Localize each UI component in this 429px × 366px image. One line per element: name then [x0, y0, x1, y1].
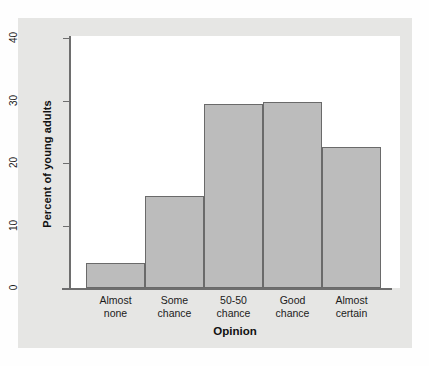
- x-label-line-2: chance: [204, 307, 263, 320]
- x-label-some-chance: Some chance: [145, 294, 204, 320]
- x-label-almost-none: Almost none: [86, 294, 145, 320]
- x-label-line-1: 50-50: [204, 294, 263, 307]
- x-label-line-2: none: [86, 307, 145, 320]
- x-axis-title: Opinion: [70, 325, 400, 337]
- x-label-line-1: Some: [145, 294, 204, 307]
- x-label-line-2: certain: [322, 307, 381, 320]
- bar-good-chance[interactable]: [263, 102, 322, 288]
- y-tick-0: [63, 288, 70, 289]
- x-label-line-2: chance: [263, 307, 322, 320]
- x-label-line-2: chance: [145, 307, 204, 320]
- x-label-line-1: Good: [263, 294, 322, 307]
- x-label-50-50-chance: 50-50 chance: [204, 294, 263, 320]
- x-label-good-chance: Good chance: [263, 294, 322, 320]
- y-tick-20: [63, 163, 70, 164]
- x-label-line-1: Almost: [322, 294, 381, 307]
- x-label-line-1: Almost: [86, 294, 145, 307]
- y-tick-label-0: 0: [8, 275, 19, 301]
- y-tick-label-10: 10: [8, 212, 19, 238]
- bar-some-chance[interactable]: [145, 196, 204, 289]
- y-tick-10: [63, 226, 70, 227]
- x-label-almost-certain: Almost certain: [322, 294, 381, 320]
- figure-root: 0 10 20 30 40 Percent of young adults Al…: [0, 0, 429, 366]
- bar-almost-certain[interactable]: [322, 147, 381, 288]
- y-tick-label-30: 30: [8, 87, 19, 113]
- bar-almost-none[interactable]: [86, 263, 145, 288]
- y-tick-label-20: 20: [8, 150, 19, 176]
- x-axis-line: [62, 288, 392, 290]
- bar-50-50-chance[interactable]: [204, 104, 263, 288]
- y-tick-label-40: 40: [8, 25, 19, 51]
- y-tick-30: [63, 101, 70, 102]
- y-tick-40: [63, 38, 70, 39]
- y-axis-title: Percent of young adults: [41, 79, 53, 249]
